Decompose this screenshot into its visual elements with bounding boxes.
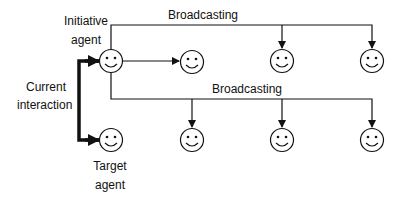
current-interaction-bracket — [79, 61, 99, 140]
smiley-face-icon — [361, 129, 384, 152]
current-interaction-label-2: interaction — [17, 98, 72, 112]
broadcasting-bottom-label: Broadcasting — [212, 82, 282, 96]
initiative-agent-smiley-icon — [100, 50, 123, 73]
broadcasting-top-label: Broadcasting — [168, 8, 238, 22]
smiley-face-icon — [181, 51, 204, 74]
initiative-agent-label-2: agent — [66, 33, 106, 47]
initiative-agent-label-1: Initiative — [62, 14, 110, 28]
current-interaction-label-1: Current — [26, 80, 66, 94]
smiley-face-icon — [271, 50, 294, 73]
target-agent-smiley-icon — [100, 129, 123, 152]
smiley-face-icon — [181, 129, 204, 152]
smiley-face-icon — [271, 129, 294, 152]
top-broadcast-connector — [111, 25, 372, 49]
target-agent-label-2: agent — [88, 178, 132, 192]
smiley-face-icon — [361, 50, 384, 73]
target-agent-label-1: Target — [88, 159, 132, 173]
